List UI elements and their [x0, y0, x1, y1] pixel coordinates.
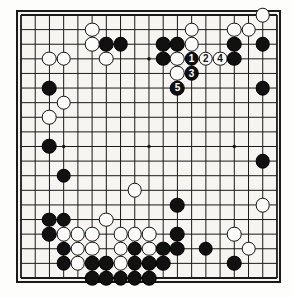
- stone-white[interactable]: [142, 241, 157, 256]
- move-stone-1[interactable]: 1: [184, 52, 199, 67]
- stone-black[interactable]: [227, 52, 242, 67]
- stone-black[interactable]: [42, 81, 57, 96]
- stone-white[interactable]: [241, 241, 256, 256]
- stone-black[interactable]: [255, 81, 270, 96]
- stone-white[interactable]: [227, 22, 242, 37]
- move-number-label: 5: [175, 83, 181, 93]
- stone-black[interactable]: [142, 271, 157, 286]
- stone-black[interactable]: [85, 271, 100, 286]
- stone-white[interactable]: [71, 241, 86, 256]
- move-stone-3[interactable]: 3: [184, 66, 199, 81]
- stone-white[interactable]: [56, 52, 71, 67]
- stone-black[interactable]: [113, 271, 128, 286]
- stone-white[interactable]: [255, 198, 270, 213]
- stone-black[interactable]: [170, 198, 185, 213]
- stone-white[interactable]: [184, 22, 199, 37]
- stone-black[interactable]: [42, 212, 57, 227]
- stone-black[interactable]: [99, 37, 114, 52]
- stone-black[interactable]: [227, 256, 242, 271]
- move-number-label: 3: [189, 68, 195, 78]
- stone-white[interactable]: [85, 22, 100, 37]
- stone-black[interactable]: [99, 256, 114, 271]
- stone-black[interactable]: [113, 37, 128, 52]
- stone-white[interactable]: [56, 227, 71, 242]
- stone-black[interactable]: [42, 139, 57, 154]
- move-stone-2[interactable]: 2: [199, 52, 214, 67]
- move-stone-5[interactable]: 5: [170, 81, 185, 96]
- stone-black[interactable]: [170, 227, 185, 242]
- stone-white[interactable]: [127, 183, 142, 198]
- stone-black[interactable]: [99, 271, 114, 286]
- stone-black[interactable]: [255, 154, 270, 169]
- stone-black[interactable]: [56, 168, 71, 183]
- stone-white[interactable]: [85, 37, 100, 52]
- move-stone-4[interactable]: 4: [213, 52, 228, 67]
- stone-black[interactable]: [127, 241, 142, 256]
- stone-white[interactable]: [142, 227, 157, 242]
- stone-black[interactable]: [56, 241, 71, 256]
- stone-black[interactable]: [56, 256, 71, 271]
- stone-black[interactable]: [156, 52, 171, 67]
- stone-white[interactable]: [227, 227, 242, 242]
- stone-black[interactable]: [142, 256, 157, 271]
- stone-black[interactable]: [156, 37, 171, 52]
- stone-black[interactable]: [156, 256, 171, 271]
- stone-white[interactable]: [127, 227, 142, 242]
- stone-black[interactable]: [156, 241, 171, 256]
- stone-white[interactable]: [99, 52, 114, 67]
- stone-black[interactable]: [170, 37, 185, 52]
- stone-black[interactable]: [127, 256, 142, 271]
- stone-white[interactable]: [71, 227, 86, 242]
- stone-white[interactable]: [241, 22, 256, 37]
- stone-white[interactable]: [113, 256, 128, 271]
- stone-white[interactable]: [113, 241, 128, 256]
- stone-black[interactable]: [170, 241, 185, 256]
- stone-white[interactable]: [184, 37, 199, 52]
- stone-white[interactable]: [113, 227, 128, 242]
- move-number-label: 1: [189, 54, 195, 64]
- stone-black[interactable]: [255, 37, 270, 52]
- stone-black[interactable]: [227, 37, 242, 52]
- stone-black[interactable]: [42, 227, 57, 242]
- stone-black[interactable]: [199, 241, 214, 256]
- stone-white[interactable]: [42, 110, 57, 125]
- stone-black[interactable]: [56, 212, 71, 227]
- stone-white[interactable]: [85, 227, 100, 242]
- stone-black[interactable]: [85, 256, 100, 271]
- move-number-label: 2: [203, 54, 209, 64]
- stone-black[interactable]: [127, 271, 142, 286]
- stone-white[interactable]: [170, 66, 185, 81]
- stone-white[interactable]: [42, 52, 57, 67]
- stone-white[interactable]: [71, 256, 86, 271]
- go-board-diagram: 12435: [0, 0, 292, 298]
- stone-white[interactable]: [99, 212, 114, 227]
- stone-white[interactable]: [255, 8, 270, 23]
- stone-white[interactable]: [85, 241, 100, 256]
- stone-white[interactable]: [56, 95, 71, 110]
- stone-white[interactable]: [170, 52, 185, 67]
- move-number-label: 4: [217, 54, 223, 64]
